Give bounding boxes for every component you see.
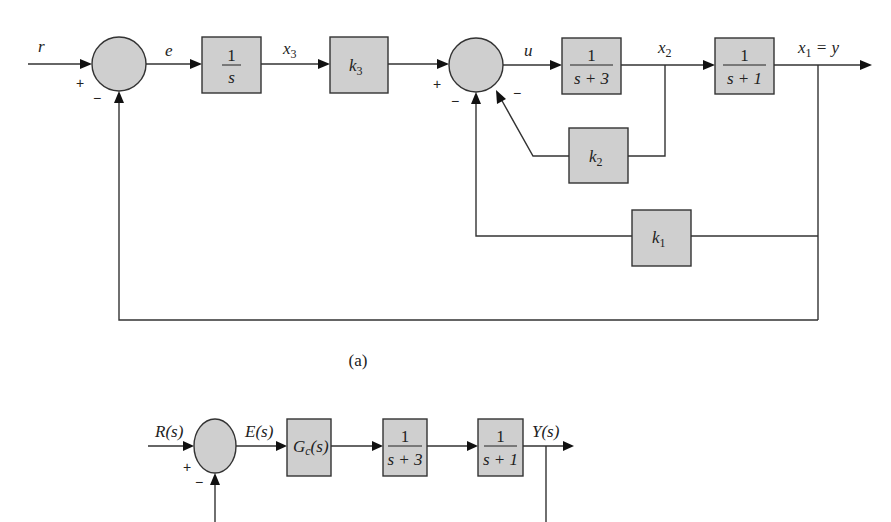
wire-k2-to-sum2 xyxy=(501,99,569,156)
plant2-denominator: s + 1 xyxy=(727,69,762,88)
arrow-icon xyxy=(437,59,449,69)
arrow-icon xyxy=(372,441,383,451)
arrow-icon xyxy=(860,60,872,70)
integrator-numerator: 1 xyxy=(227,46,236,65)
arrow-icon xyxy=(563,441,574,451)
arrow-icon xyxy=(80,59,92,69)
wire-outer-feedback xyxy=(119,101,818,320)
label-r: r xyxy=(38,37,45,56)
arrow-icon xyxy=(318,59,330,69)
summing-junction-1 xyxy=(92,37,146,91)
block-diagram-canvas: r + − e 1 s x3 k3 + − − u 1 xyxy=(0,0,891,522)
arrow-icon xyxy=(703,60,715,70)
sign-minus: − xyxy=(513,85,521,101)
sign-minus: − xyxy=(195,474,203,490)
label-Y: Y(s) xyxy=(532,422,560,441)
label-u: u xyxy=(524,41,533,60)
arrow-icon xyxy=(467,441,478,451)
summing-junction-2 xyxy=(449,38,503,92)
arrow-icon xyxy=(550,60,562,70)
plant1-numerator: 1 xyxy=(401,427,410,446)
diagram-a: r + − e 1 s x3 k3 + − − u 1 xyxy=(28,37,872,370)
label-e: e xyxy=(165,41,173,60)
sign-minus: − xyxy=(451,93,459,109)
sign-plus: + xyxy=(76,75,84,91)
plant2-numerator: 1 xyxy=(496,427,505,446)
label-E: E(s) xyxy=(244,422,274,441)
label-R: R(s) xyxy=(154,422,184,441)
label-x1-eq-y: x1 = y xyxy=(797,38,840,60)
label-x3: x3 xyxy=(282,39,297,61)
sign-minus: − xyxy=(93,90,101,106)
arrow-icon xyxy=(276,441,287,451)
arrow-icon xyxy=(190,59,202,69)
plant2-numerator: 1 xyxy=(740,46,749,65)
caption-a: (a) xyxy=(349,351,368,370)
arrow-icon xyxy=(183,441,194,451)
arrow-icon xyxy=(210,473,220,485)
diagram-b: R(s) + − E(s) Gc(s) 1 s + 3 1 s + 1 Y(s) xyxy=(148,419,574,522)
plant2-denominator: s + 1 xyxy=(483,450,518,469)
plant1-numerator: 1 xyxy=(587,46,596,65)
summing-junction xyxy=(194,419,236,473)
sign-plus: + xyxy=(183,459,191,475)
arrow-icon xyxy=(496,90,506,104)
arrow-icon xyxy=(114,91,124,103)
plant1-denominator: s + 3 xyxy=(387,450,422,469)
controller-label: Gc(s) xyxy=(293,437,329,458)
sign-plus: + xyxy=(433,76,441,92)
arrow-icon xyxy=(471,92,481,104)
plant1-denominator: s + 3 xyxy=(574,69,609,88)
wire-x2-feedback xyxy=(628,65,665,156)
integrator-denominator: s xyxy=(228,68,235,87)
label-x2: x2 xyxy=(657,38,672,60)
